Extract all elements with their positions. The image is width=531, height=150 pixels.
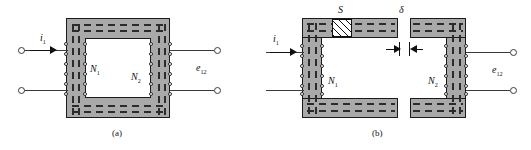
winding-turn [83, 92, 87, 96]
current-label-b: i1 [273, 34, 279, 46]
secondary-winding-label-a-sub: 2 [138, 77, 141, 84]
caption-a: (a) [112, 128, 122, 138]
current-arrow-line-a [30, 50, 52, 51]
gap-arrow-head-left [394, 45, 401, 53]
winding-turn [83, 72, 87, 76]
lamination-a-left-2 [78, 24, 80, 116]
winding-turn [464, 74, 468, 78]
lamination-a-right-2 [164, 24, 166, 116]
secondary-winding-label-b-sub: 2 [435, 81, 438, 88]
secondary-lead-top-b [466, 52, 510, 53]
winding-turn [168, 42, 172, 46]
emf-label-a: e12 [196, 63, 207, 75]
current-label-a-sub: 1 [43, 38, 46, 45]
block-s-label: S [338, 5, 343, 15]
winding-turn [464, 64, 468, 68]
winding-turn [320, 74, 324, 78]
primary-terminal-top-a[interactable] [18, 47, 25, 54]
winding-turn [149, 42, 153, 46]
secondary-terminal-bottom-b[interactable] [510, 87, 517, 94]
primary-lead-bottom-a [24, 90, 68, 91]
lamination-a-left-1 [72, 24, 74, 116]
lamination-a-bot-2 [72, 111, 164, 113]
lamination-a-right-1 [158, 24, 160, 116]
winding-turn [168, 72, 172, 76]
figure-root: i1 N1 N2 e12 (a) [0, 0, 531, 150]
gap-arrow-head-right [410, 45, 417, 53]
secondary-terminal-top-b[interactable] [510, 49, 517, 56]
lamination-a-top-2 [72, 30, 164, 32]
caption-b: (b) [372, 128, 383, 138]
current-arrow-head-b [290, 48, 297, 56]
winding-turn [300, 84, 304, 88]
lamination-b-rightbot-1 [413, 103, 463, 105]
winding-turn [444, 74, 448, 78]
winding-turn [320, 92, 324, 96]
lamination-b-leftleg-1 [308, 23, 310, 115]
secondary-lead-bottom-b [466, 90, 510, 91]
gap-label: δ [399, 5, 404, 15]
winding-turn [168, 92, 172, 96]
secondary-lead-bottom-a [170, 90, 214, 91]
winding-turn [64, 42, 68, 46]
winding-turn [149, 52, 153, 56]
winding-turn [464, 92, 468, 96]
secondary-terminal-bottom-a[interactable] [214, 87, 221, 94]
winding-turn [444, 64, 448, 68]
primary-winding-label-b-sub: 1 [335, 81, 338, 88]
primary-winding-label-b: N1 [328, 76, 338, 88]
secondary-winding-label-a: N2 [131, 72, 141, 84]
primary-terminal-bottom-a[interactable] [18, 87, 25, 94]
lamination-b-leftbot-1 [307, 103, 395, 105]
lamination-b-rightleg-2 [459, 23, 461, 115]
block-s [332, 19, 352, 37]
figure-panel-a: i1 N1 N2 e12 (a) [0, 0, 265, 150]
current-arrow-line-b [270, 52, 292, 53]
current-label-a: i1 [40, 33, 46, 45]
lamination-b-leftbot-2 [307, 110, 395, 112]
winding-turn [320, 44, 324, 48]
lamination-b-rightleg-1 [452, 23, 454, 115]
secondary-winding-label-b: N2 [428, 76, 438, 88]
secondary-winding-label-a-text: N [131, 71, 138, 82]
winding-turn [444, 54, 448, 58]
winding-turn [83, 82, 87, 86]
emf-label-a-sub: 12 [200, 68, 206, 75]
winding-turn [83, 42, 87, 46]
winding-turn [444, 84, 448, 88]
winding-turn [83, 52, 87, 56]
emf-label-b-sub: 12 [496, 70, 502, 77]
primary-winding-label-a-text: N [90, 63, 97, 74]
core-b-right-top-arm [410, 18, 466, 38]
winding-turn [300, 44, 304, 48]
winding-turn [320, 64, 324, 68]
winding-turn [320, 84, 324, 88]
primary-winding-label-a: N1 [90, 64, 100, 76]
secondary-winding-label-b-text: N [428, 75, 435, 86]
winding-turn [464, 44, 468, 48]
winding-turn [64, 52, 68, 56]
winding-turn [149, 82, 153, 86]
lamination-b-righttop-2 [413, 30, 463, 32]
winding-turn [464, 84, 468, 88]
primary-winding-label-b-text: N [328, 75, 335, 86]
winding-turn [168, 62, 172, 66]
winding-turn [300, 92, 304, 96]
lamination-b-leftleg-2 [315, 23, 317, 115]
winding-turn [320, 54, 324, 58]
winding-turn [444, 92, 448, 96]
figure-panel-b: i1 S δ N1 N2 e12 (b) [266, 0, 531, 150]
winding-turn [149, 92, 153, 96]
core-b-right-bottom-arm [410, 98, 466, 118]
lamination-a-top-1 [72, 24, 164, 26]
secondary-terminal-top-a[interactable] [214, 47, 221, 54]
emf-label-b: e12 [492, 65, 503, 77]
lamination-b-rightbot-2 [413, 110, 463, 112]
winding-turn [64, 62, 68, 66]
winding-turn [300, 54, 304, 58]
winding-turn [300, 74, 304, 78]
primary-winding-label-a-sub: 1 [97, 69, 100, 76]
winding-turn [149, 72, 153, 76]
winding-turn [64, 92, 68, 96]
current-label-b-sub: 1 [276, 39, 279, 46]
